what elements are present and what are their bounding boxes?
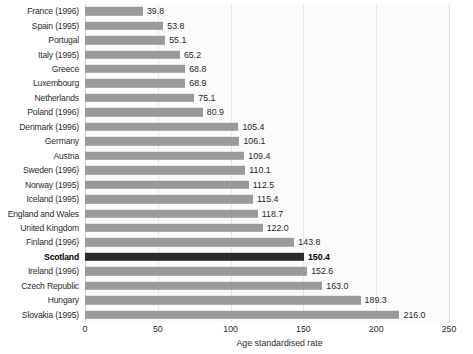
x-tick-label-150: 150 bbox=[296, 324, 311, 334]
value-label: 55.1 bbox=[169, 35, 186, 45]
bar-row: Iceland (1995)115.4 bbox=[0, 192, 473, 206]
category-label: Slovakia (1995) bbox=[22, 310, 79, 320]
value-label: 109.4 bbox=[248, 151, 270, 161]
bar-row: France (1996)39.8 bbox=[0, 4, 473, 18]
bar bbox=[85, 267, 307, 275]
category-label: Hungary bbox=[48, 295, 79, 305]
bar-row: United Kingdom122.0 bbox=[0, 221, 473, 235]
bar-row: Slovakia (1995)216.0 bbox=[0, 308, 473, 322]
bar bbox=[85, 36, 165, 44]
category-label: France (1996) bbox=[27, 6, 79, 16]
value-label: 122.0 bbox=[267, 223, 289, 233]
bar bbox=[85, 224, 263, 232]
bar bbox=[85, 7, 143, 15]
category-label: United Kingdom bbox=[20, 223, 79, 233]
value-label: 80.9 bbox=[207, 107, 224, 117]
bar-row: England and Wales118.7 bbox=[0, 206, 473, 220]
value-label: 68.9 bbox=[189, 78, 206, 88]
bar bbox=[85, 123, 238, 131]
value-label: 163.0 bbox=[326, 281, 348, 291]
category-label: Norway (1995) bbox=[25, 180, 79, 190]
value-label: 115.4 bbox=[257, 194, 278, 204]
bar-row: Luxembourg68.9 bbox=[0, 76, 473, 90]
bar bbox=[85, 238, 294, 246]
bar-row: Netherlands75.1 bbox=[0, 91, 473, 105]
x-tick-label-200: 200 bbox=[369, 324, 384, 334]
category-label: Poland (1996) bbox=[27, 107, 79, 117]
bar-rows: France (1996)39.8Spain (1995)53.8Portuga… bbox=[0, 4, 473, 322]
bar-row: Denmark (1996)105.4 bbox=[0, 120, 473, 134]
bar bbox=[85, 50, 180, 58]
bar-chart: France (1996)39.8Spain (1995)53.8Portuga… bbox=[0, 0, 473, 354]
category-label: Germany bbox=[45, 136, 79, 146]
x-axis-title: Age standardised rate bbox=[0, 338, 473, 348]
category-label: Denmark (1996) bbox=[19, 122, 79, 132]
bar bbox=[85, 65, 185, 73]
category-label: Netherlands bbox=[35, 93, 79, 103]
bar-row: Finland (1996)143.8 bbox=[0, 235, 473, 249]
bar-row: Sweden (1996)110.1 bbox=[0, 163, 473, 177]
bar-highlighted bbox=[85, 253, 304, 261]
category-label: Spain (1995) bbox=[32, 21, 79, 31]
x-tick-label-100: 100 bbox=[223, 324, 238, 334]
value-label: 68.8 bbox=[189, 64, 206, 74]
value-label: 110.1 bbox=[249, 165, 270, 175]
bar-row: Ireland (1996)152.6 bbox=[0, 264, 473, 278]
category-label: Czech Republic bbox=[21, 281, 79, 291]
x-axis-title-text: Age standardised rate bbox=[236, 338, 322, 348]
bar-row: Germany106.1 bbox=[0, 134, 473, 148]
bar bbox=[85, 137, 239, 145]
category-label: Greece bbox=[52, 64, 79, 74]
value-label: 105.4 bbox=[242, 122, 264, 132]
category-label: England and Wales bbox=[8, 209, 79, 219]
bar bbox=[85, 282, 322, 290]
bar bbox=[85, 94, 194, 102]
x-tick-label-50: 50 bbox=[153, 324, 163, 334]
bar bbox=[85, 311, 399, 319]
category-label: Scotland bbox=[44, 252, 79, 262]
value-label: 150.4 bbox=[308, 252, 330, 262]
x-axis: Age standardised rate 050100150200250 bbox=[0, 322, 473, 354]
bar bbox=[85, 152, 244, 160]
bar-row: Greece68.8 bbox=[0, 62, 473, 76]
bar bbox=[85, 180, 249, 188]
category-label: Iceland (1995) bbox=[26, 194, 79, 204]
bar bbox=[85, 296, 361, 304]
x-tick-label-250: 250 bbox=[442, 324, 457, 334]
category-label: Sweden (1996) bbox=[23, 165, 79, 175]
category-label: Italy (1995) bbox=[38, 50, 79, 60]
bar bbox=[85, 166, 245, 174]
value-label: 152.6 bbox=[311, 266, 333, 276]
bar bbox=[85, 21, 163, 29]
value-label: 112.5 bbox=[253, 180, 274, 190]
x-tick-label-0: 0 bbox=[83, 324, 88, 334]
bar-row: Czech Republic163.0 bbox=[0, 279, 473, 293]
category-label: Ireland (1996) bbox=[28, 266, 79, 276]
bar-row: Poland (1996)80.9 bbox=[0, 105, 473, 119]
bar-row: Scotland150.4 bbox=[0, 250, 473, 264]
value-label: 216.0 bbox=[403, 310, 425, 320]
bar-row: Austria109.4 bbox=[0, 149, 473, 163]
value-label: 53.8 bbox=[167, 21, 184, 31]
bar bbox=[85, 209, 258, 217]
bar bbox=[85, 108, 203, 116]
value-label: 39.8 bbox=[147, 6, 164, 16]
value-label: 118.7 bbox=[262, 209, 283, 219]
bar-row: Portugal55.1 bbox=[0, 33, 473, 47]
value-label: 106.1 bbox=[243, 136, 265, 146]
value-label: 189.3 bbox=[365, 295, 387, 305]
bar bbox=[85, 79, 185, 87]
value-label: 75.1 bbox=[198, 93, 215, 103]
bar-row: Hungary189.3 bbox=[0, 293, 473, 307]
category-label: Finland (1996) bbox=[26, 237, 79, 247]
category-label: Austria bbox=[53, 151, 79, 161]
bar-row: Spain (1995)53.8 bbox=[0, 18, 473, 32]
bar bbox=[85, 195, 253, 203]
category-label: Luxembourg bbox=[33, 78, 79, 88]
category-label: Portugal bbox=[48, 35, 79, 45]
value-label: 65.2 bbox=[184, 50, 201, 60]
bar-row: Italy (1995)65.2 bbox=[0, 47, 473, 61]
bar-row: Norway (1995)112.5 bbox=[0, 177, 473, 191]
value-label: 143.8 bbox=[298, 237, 320, 247]
